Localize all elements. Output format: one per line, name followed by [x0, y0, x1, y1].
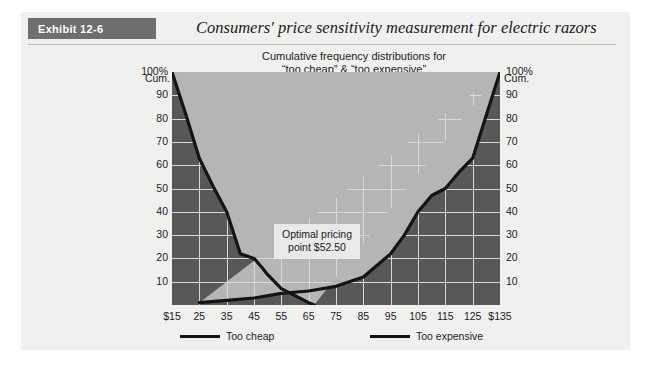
y-tick-right-10: 10	[506, 275, 546, 287]
y-tick-right-70: 70	[506, 135, 546, 147]
header-divider	[28, 44, 616, 45]
legend-item-too-cheap: Too cheap	[180, 330, 274, 342]
y-tick-left-30: 30	[132, 228, 168, 240]
plot-svg	[172, 72, 500, 305]
legend-label-too-cheap: Too cheap	[226, 330, 274, 342]
annotation-line-2: point $52.50	[282, 241, 352, 254]
y-tick-left-100: 100%	[132, 65, 168, 77]
legend-label-too-expensive: Too expensive	[416, 330, 483, 342]
y-tick-right-40: 40	[506, 205, 546, 217]
chart-title-line-1: Cumulative frequency distributions for	[204, 50, 504, 63]
y-tick-right-30: 30	[506, 228, 546, 240]
annotation-optimal-pricing: Optimal pricing point $52.50	[274, 224, 360, 259]
y-tick-left-70: 70	[132, 135, 168, 147]
y-tick-left-80: 80	[132, 112, 168, 124]
legend-item-too-expensive: Too expensive	[370, 330, 483, 342]
y-tick-right-20: 20	[506, 251, 546, 263]
y-tick-left-50: 50	[132, 182, 168, 194]
y-tick-right-50: 50	[506, 182, 546, 194]
page-title: Consumers' price sensitivity measurement…	[196, 18, 597, 38]
y-tick-left-90: 90	[132, 88, 168, 100]
price-sensitivity-chart: Cumulative frequency distributions for “…	[132, 48, 552, 348]
y-tick-left-20: 20	[132, 251, 168, 263]
plot-area	[172, 72, 500, 305]
exhibit-tag-label: Exhibit 12-6	[38, 23, 103, 35]
y-tick-right-80: 80	[506, 112, 546, 124]
y-tick-right-90: 90	[506, 88, 546, 100]
y-tick-left-60: 60	[132, 158, 168, 170]
exhibit-page: Exhibit 12-6 Consumers' price sensitivit…	[0, 0, 667, 368]
x-tick-135: $135	[483, 310, 517, 322]
legend-swatch-too-cheap	[180, 335, 220, 338]
exhibit-tag: Exhibit 12-6	[28, 18, 156, 39]
y-tick-right-100: 100%	[506, 65, 546, 77]
y-tick-left-40: 40	[132, 205, 168, 217]
y-tick-left-10: 10	[132, 275, 168, 287]
annotation-line-1: Optimal pricing	[282, 228, 352, 241]
y-tick-right-60: 60	[506, 158, 546, 170]
legend-swatch-too-expensive	[370, 335, 410, 338]
